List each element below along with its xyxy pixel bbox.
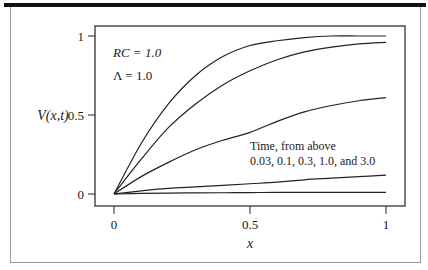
annotation-time-values: 0.03, 0.1, 0.3, 1.0, and 3.0 — [250, 154, 375, 168]
chart: 1 0.5 0 0 0.5 1 V(x,t) x RC = 1.0 Λ = 1.… — [0, 0, 428, 270]
annotation-time-title: Time, from above — [250, 139, 336, 153]
x-axis-label: x — [246, 236, 254, 251]
annotation-rc: RC = 1.0 — [112, 45, 162, 60]
x-tick-label-0: 0 — [111, 217, 118, 232]
curve-0.1 — [114, 42, 386, 194]
x-tick-label-1: 1 — [383, 217, 390, 232]
y-axis-label: V(x,t) — [37, 108, 69, 124]
x-axis — [114, 206, 386, 214]
y-axis — [88, 36, 95, 194]
annotation-lambda: Λ = 1.0 — [113, 68, 152, 83]
x-tick-label-0.5: 0.5 — [242, 217, 258, 232]
y-tick-label-0: 0 — [78, 187, 85, 202]
curve-3.0 — [114, 192, 386, 194]
y-tick-label-1: 1 — [78, 29, 85, 44]
curve-1.0 — [114, 175, 386, 194]
y-tick-label-0.5: 0.5 — [68, 108, 84, 123]
